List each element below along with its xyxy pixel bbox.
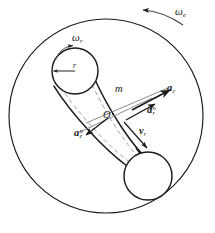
origin-point-marker bbox=[112, 113, 114, 115]
label-omega-r: ωr bbox=[72, 32, 82, 43]
belt-outer-edge bbox=[54, 86, 127, 166]
label-a-e-n: ane bbox=[74, 128, 85, 139]
belt-inner-edge bbox=[96, 81, 151, 163]
label-origin-o: O bbox=[103, 110, 111, 121]
label-a-r-n: anr bbox=[147, 105, 158, 116]
kinematics-figure: ωe ωr r m O ac anr ane vr bbox=[0, 0, 215, 233]
label-omega-e: ωe bbox=[175, 6, 186, 17]
vector-a-e-n bbox=[86, 118, 108, 135]
bottom-pulley-circle bbox=[124, 152, 172, 200]
label-v-r: vr bbox=[139, 126, 146, 137]
label-mass-m: m bbox=[115, 84, 123, 95]
label-radius-r: r bbox=[73, 62, 76, 70]
label-a-c: ac bbox=[167, 83, 175, 94]
